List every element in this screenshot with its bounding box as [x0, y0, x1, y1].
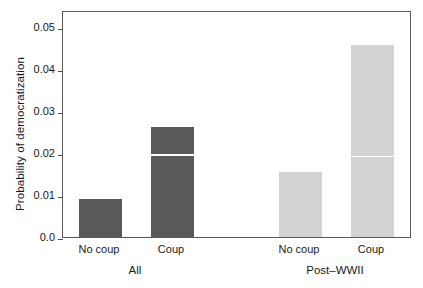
bar-inner-divider [351, 156, 394, 158]
tick-mark [58, 29, 63, 30]
group-label-postwwii: Post–WWII [265, 264, 405, 276]
y-tick-label: 0.05 [34, 21, 55, 33]
bar-inner-divider [151, 154, 194, 156]
tick-mark [58, 239, 63, 240]
tick-mark [58, 113, 63, 114]
y-tick-label: 0.04 [34, 63, 55, 75]
tick-mark [58, 155, 63, 156]
x-axis-label: Coup [131, 243, 211, 255]
bar-all-no-coup [79, 199, 122, 237]
x-axis-label: No coup [259, 243, 339, 255]
y-tick-label: 0.01 [34, 189, 55, 201]
bar-all-coup [151, 127, 194, 237]
tick-mark [58, 197, 63, 198]
tick-mark [58, 71, 63, 72]
y-axis-title: Probability of democratization [14, 24, 26, 244]
x-axis-label: Coup [331, 243, 411, 255]
plot-area: 0.00.010.020.030.040.05 [62, 11, 411, 238]
bar-postwwii-coup [351, 45, 394, 237]
bar-postwwii-no-coup [279, 172, 322, 237]
x-axis-label: No coup [59, 243, 139, 255]
y-tick-label: 0.0 [40, 231, 55, 243]
y-tick-label: 0.02 [34, 147, 55, 159]
group-label-all: All [65, 264, 205, 276]
y-tick-label: 0.03 [34, 105, 55, 117]
bar-chart: Probability of democratization 0.00.010.… [0, 0, 423, 288]
